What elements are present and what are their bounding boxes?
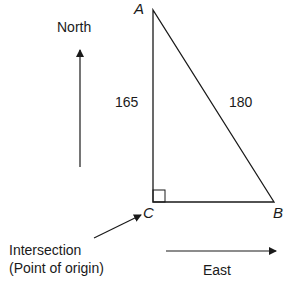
right-triangle [153,10,274,202]
intersection-label: Intersection [9,242,81,258]
vertex-c-label: C [143,205,154,221]
north-label: North [57,19,91,35]
side-ac-length: 165 [115,94,138,110]
east-label: East [203,262,231,278]
origin-pointer-arrow-icon [94,215,141,238]
triangle-diagram [0,0,290,282]
right-angle-marker [153,190,165,202]
side-ab-length: 180 [229,94,252,110]
point-of-origin-label: (Point of origin) [9,260,104,276]
vertex-a-label: A [134,1,144,17]
vertex-b-label: B [273,205,283,221]
